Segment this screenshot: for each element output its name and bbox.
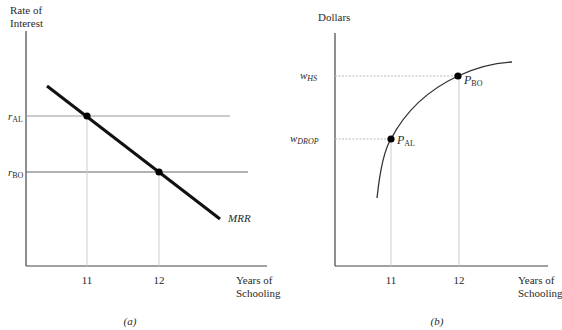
panel-b-x-title-line1: Years of — [518, 274, 555, 286]
panel-a-tick-12: 12 — [154, 274, 165, 286]
panel-a-tick-11: 11 — [82, 274, 93, 286]
panel-a-point-al — [83, 112, 90, 119]
diagram-canvas: Rate of Interest rAL rBO MRR 11 12 Years… — [0, 0, 562, 330]
w-hs-label: wHS — [300, 69, 317, 83]
p-bo-label: PBO — [463, 73, 483, 88]
r-bo-label: rBO — [8, 166, 24, 180]
mrr-label: MRR — [227, 212, 251, 224]
panel-a-point-bo — [155, 168, 162, 175]
panel-a-y-title-line1: Rate of — [10, 4, 42, 16]
r-al-label: rAL — [8, 110, 23, 124]
panel-b-tick-12: 12 — [454, 274, 465, 286]
panel-b-y-title: Dollars — [318, 11, 350, 23]
panel-b: Dollars wHS wDROP PAL PBO 11 12 Years of… — [290, 11, 562, 328]
panel-a-x-title-line1: Years of — [236, 274, 273, 286]
panel-b-x-title-line2: Schooling — [518, 287, 562, 299]
panel-a-y-title-line2: Interest — [10, 17, 43, 29]
mrr-line — [47, 86, 220, 219]
panel-a-caption: (a) — [124, 315, 137, 328]
panel-a: Rate of Interest rAL rBO MRR 11 12 Years… — [8, 4, 281, 328]
panel-a-x-title-line2: Schooling — [236, 287, 281, 299]
panel-b-caption: (b) — [431, 315, 444, 328]
panel-b-tick-11: 11 — [386, 274, 397, 286]
p-al-label: PAL — [396, 133, 415, 148]
p-bo-point — [454, 72, 461, 79]
earnings-curve — [377, 62, 512, 198]
p-al-point — [387, 135, 394, 142]
w-drop-label: wDROP — [290, 132, 319, 146]
